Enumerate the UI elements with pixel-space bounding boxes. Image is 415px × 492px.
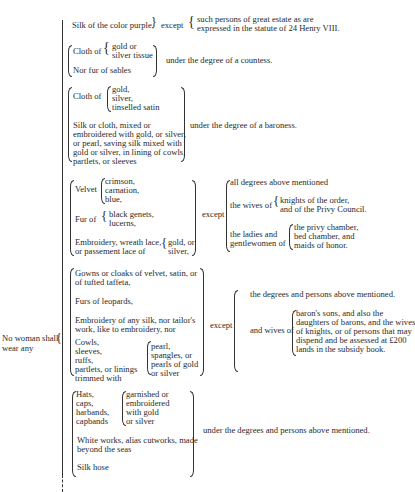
brace: { [101, 211, 107, 220]
g3-result: under the degree of a baroness. [190, 121, 297, 130]
brace: { [103, 43, 110, 52]
subject-line1: No woman shall [2, 334, 58, 343]
g5-c5: trimmed with [75, 374, 122, 383]
g3-c3: tinselled satin [112, 103, 160, 112]
continuation-dash [62, 470, 63, 492]
g4-velvet: Velvet [75, 185, 97, 194]
g1-item: Silk of the color purple, [72, 21, 154, 30]
brace [200, 268, 204, 376]
g6-g4: or silver [126, 417, 154, 426]
g1-except: except [161, 21, 183, 30]
g4-wives: the wives of [230, 201, 272, 210]
main-brace-line [62, 20, 63, 478]
g4-fur: Fur of [75, 215, 96, 224]
g5-except: except [210, 321, 232, 330]
g2-result: under the degree of a countess. [166, 56, 272, 65]
brace [68, 45, 72, 77]
g4-f2: lucerns, [109, 219, 136, 228]
g2-cloth: Cloth of [73, 47, 101, 56]
g4-g2: silver, [168, 247, 189, 256]
g2-c2: silver tissue [112, 51, 153, 60]
g3-s5: partlets, or sleeves [73, 157, 137, 166]
g4-x1: all degrees above mentioned [230, 178, 328, 187]
g5-p4: or silver [151, 369, 179, 378]
g4-except: except [202, 210, 224, 219]
main-brace: { [56, 334, 62, 343]
g5-b5: lands in the subsidy book. [296, 345, 386, 354]
brace: } [151, 18, 157, 27]
brace [153, 45, 157, 77]
g4-ladies2: gentlewomen of [230, 239, 286, 248]
brace [181, 87, 185, 162]
g4-e2: or passement lace of [75, 247, 145, 256]
g4-l3: maids of honor. [294, 241, 348, 250]
brace [190, 391, 194, 477]
brace [234, 290, 238, 372]
brace: { [188, 17, 195, 26]
g6-w2: beyond the seas [77, 445, 131, 454]
g6-silk: Silk hose [77, 463, 109, 472]
brace [107, 86, 111, 112]
brace [289, 224, 293, 250]
brace: { [273, 196, 279, 205]
g4-v3: blue, [105, 195, 122, 204]
brace [68, 87, 72, 162]
brace [70, 180, 74, 256]
g5-furs: Furs of leopards, [75, 297, 133, 306]
subject-line2: wear any [2, 344, 33, 353]
g5-emb2: work, like to embroidery, nor [75, 325, 176, 334]
g1-exc2: expressed in the statute of 24 Henry VII… [197, 24, 340, 33]
g6-result: under the degrees and persons above ment… [203, 426, 370, 435]
brace: { [161, 238, 167, 247]
brace [70, 268, 74, 376]
g5-gowns2: of tufted taffeta, [75, 278, 130, 287]
brace [192, 180, 196, 256]
g5-x1: the degrees and persons above mentioned. [250, 290, 395, 299]
g4-w2: and of the Privy Council. [280, 205, 367, 214]
g5-wives: and wives of [250, 326, 294, 335]
g2-fur: Nor fur of sables [73, 66, 131, 75]
g6-h4: capbands [76, 417, 108, 426]
g3-cloth: Cloth of [73, 92, 101, 101]
